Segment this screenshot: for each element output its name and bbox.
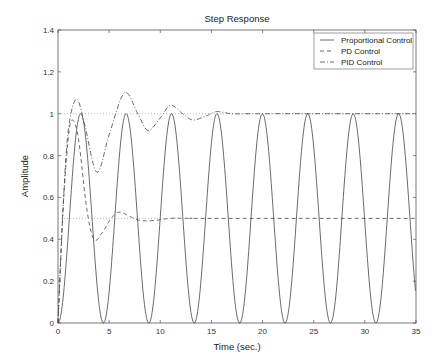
legend-item-proportional: Proportional Control xyxy=(341,36,412,45)
x-tick-label: 35 xyxy=(412,327,421,336)
plot-frame xyxy=(58,30,416,323)
x-tick-label: 10 xyxy=(156,327,165,336)
legend-item-pid: PID Control xyxy=(341,58,383,67)
legend: Proportional Control PD Control PID Cont… xyxy=(314,33,413,69)
x-tick-label: 25 xyxy=(309,327,318,336)
y-axis-label: Amplitude xyxy=(19,155,30,197)
x-tick-label: 30 xyxy=(360,327,369,336)
x-tick-label: 0 xyxy=(56,327,61,336)
chart-title: Step Response xyxy=(205,13,270,24)
x-axis-label: Time (sec.) xyxy=(213,341,260,352)
step-response-chart: Step Response 05101520253035 00.20.40.60… xyxy=(0,0,439,363)
y-tick-label: 1.4 xyxy=(43,26,55,35)
y-tick-label: 1.2 xyxy=(43,68,55,77)
y-tick-label: 1 xyxy=(50,110,55,119)
y-tick-label: 0.8 xyxy=(43,152,55,161)
plot-area xyxy=(58,30,416,323)
x-tick-label: 15 xyxy=(207,327,216,336)
legend-item-pd: PD Control xyxy=(341,47,380,56)
y-tick-label: 0.4 xyxy=(43,235,55,244)
y-tick-label: 0.6 xyxy=(43,193,55,202)
y-tick-label: 0 xyxy=(50,319,55,328)
y-tick-label: 0.2 xyxy=(43,277,55,286)
x-tick-label: 5 xyxy=(107,327,112,336)
x-tick-label: 20 xyxy=(258,327,267,336)
